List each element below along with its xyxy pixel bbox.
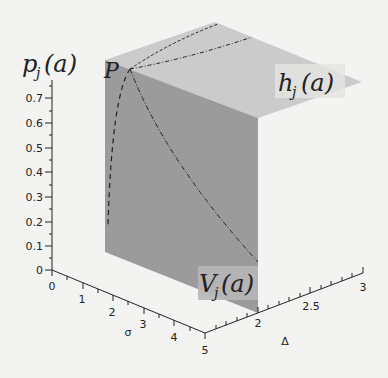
h-plane-label: h j (a) (275, 64, 345, 100)
svg-text:(a): (a) (301, 69, 334, 97)
delta-tick-2: 2 (255, 317, 262, 330)
delta-tick-2.5: 2.5 (302, 300, 320, 313)
svg-text:(a): (a) (44, 50, 77, 78)
point-p-label: P (103, 58, 120, 83)
z-axis: 0 0.1 0.2 0.3 0.4 0.5 0.6 0.7 (26, 80, 53, 277)
chart-svg: 0 0.1 0.2 0.3 0.4 0.5 0.6 0.7 p j (a) (0, 0, 388, 378)
delta-tick-3: 3 (360, 281, 367, 294)
v-plane-label: V j (a) (198, 266, 258, 301)
z-tick-0.5: 0.5 (26, 142, 44, 155)
svg-text:(a): (a) (221, 270, 254, 298)
sigma-tick-3: 3 (140, 318, 147, 331)
sigma-tick-1: 1 (79, 293, 86, 306)
sigma-axis-label: σ (125, 326, 132, 339)
delta-axis-label: Δ (281, 335, 289, 348)
z-tick-0: 0 (36, 264, 43, 277)
z-tick-0.2: 0.2 (26, 216, 44, 229)
z-tick-0.7: 0.7 (26, 92, 44, 105)
z-tick-0.6: 0.6 (26, 117, 44, 130)
sigma-tick-4: 4 (171, 331, 178, 344)
z-axis-title: p j (a) (22, 50, 77, 81)
chart-figure: 0 0.1 0.2 0.3 0.4 0.5 0.6 0.7 p j (a) (0, 0, 388, 378)
z-tick-0.1: 0.1 (26, 240, 44, 253)
z-tick-0.3: 0.3 (26, 191, 44, 204)
z-tick-0.4: 0.4 (26, 166, 44, 179)
sigma-tick-2: 2 (109, 306, 116, 319)
sigma-tick-0: 0 (49, 280, 56, 293)
sigma-tick-5: 5 (202, 344, 209, 357)
